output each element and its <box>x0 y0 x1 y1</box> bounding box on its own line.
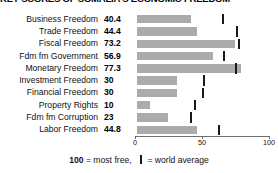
row-label: Property Rights <box>0 101 98 110</box>
world-average-marker <box>236 26 238 36</box>
row-plot <box>137 124 277 136</box>
row-plot <box>137 99 277 111</box>
chart-row: Fdm fm Government56.9 <box>0 50 278 62</box>
chart-row: Business Freedom40.4 <box>0 13 278 25</box>
chart-row: Property Rights10 <box>0 99 278 111</box>
value-bar <box>137 76 177 84</box>
value-bar <box>137 52 213 60</box>
row-plot <box>137 87 277 99</box>
row-plot <box>137 50 277 62</box>
row-label: Fdm fm Government <box>0 52 98 61</box>
world-average-marker <box>223 51 225 61</box>
row-value: 30 <box>98 88 137 97</box>
value-bar <box>137 15 191 23</box>
row-value: 44.4 <box>98 27 137 36</box>
world-average-marker <box>202 88 204 98</box>
row-label: Labor Freedom <box>0 125 98 134</box>
axis-tick-label: 50 <box>198 139 206 147</box>
row-plot <box>137 111 277 123</box>
row-value: 77.3 <box>98 64 137 73</box>
row-plot <box>137 25 277 37</box>
world-average-marker <box>238 39 240 49</box>
world-average-marker <box>218 125 220 135</box>
row-value: 73.2 <box>98 39 137 48</box>
value-bar <box>137 64 241 72</box>
legend-max-value: 100 <box>69 155 83 165</box>
chart-row: Trade Freedom44.4 <box>0 25 278 37</box>
world-average-marker <box>190 112 192 122</box>
value-bar <box>137 126 197 134</box>
world-average-marker-icon <box>140 155 142 164</box>
row-label: Investment Freedom <box>0 76 98 85</box>
row-plot <box>137 62 277 74</box>
row-value: 40.4 <box>98 15 137 24</box>
world-average-marker <box>222 14 224 24</box>
row-plot <box>137 38 277 50</box>
chart-row: Fiscal Freedom73.2 <box>0 38 278 50</box>
value-bar <box>137 113 168 121</box>
row-label: Fdm fm Corruption <box>0 113 98 122</box>
economic-freedom-chart: KEY SCORES OF SOMALIA'S ECONOMIC FREEDOM… <box>0 0 278 173</box>
row-label: Financial Freedom <box>0 88 98 97</box>
row-value: 10 <box>98 101 137 110</box>
axis-tick-label: 0 <box>133 139 137 147</box>
value-bar <box>137 101 150 109</box>
row-label: Trade Freedom <box>0 27 98 36</box>
row-value: 44.8 <box>98 125 137 134</box>
row-label: Business Freedom <box>0 15 98 24</box>
world-average-marker <box>235 63 237 73</box>
world-average-marker <box>203 75 205 85</box>
chart-legend: 100 = most free, = world average <box>0 155 278 165</box>
row-value: 56.9 <box>98 52 137 61</box>
value-bar <box>137 40 235 48</box>
chart-title: KEY SCORES OF SOMALIA'S ECONOMIC FREEDOM <box>0 0 278 3</box>
chart-row: Monetary Freedom77.3 <box>0 62 278 74</box>
row-value: 30 <box>98 76 137 85</box>
row-plot <box>137 13 277 25</box>
chart-rows: Business Freedom40.4Trade Freedom44.4Fis… <box>0 13 278 136</box>
axis-tick-label: 100 <box>263 139 275 147</box>
legend-max-text: = most free, <box>86 155 132 165</box>
chart-row: Investment Freedom30 <box>0 74 278 86</box>
legend-marker-text: = world average <box>147 155 208 165</box>
chart-row: Labor Freedom44.8 <box>0 124 278 136</box>
world-average-marker <box>194 100 196 110</box>
row-value: 23 <box>98 113 137 122</box>
row-label: Fiscal Freedom <box>0 39 98 48</box>
value-bar <box>137 89 177 97</box>
chart-row: Financial Freedom30 <box>0 87 278 99</box>
row-label: Monetary Freedom <box>0 64 98 73</box>
value-bar <box>137 27 197 35</box>
chart-title-clipped: KEY SCORES OF SOMALIA'S ECONOMIC FREEDOM <box>0 0 278 3</box>
row-plot <box>137 74 277 86</box>
chart-row: Fdm fm Corruption23 <box>0 111 278 123</box>
